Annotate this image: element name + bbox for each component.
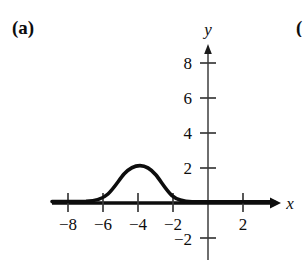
x-tick-label-minus-2: −2 xyxy=(164,215,182,234)
x-tick-label-minus-4: −4 xyxy=(129,215,148,234)
y-tick-label-6: 6 xyxy=(184,89,193,108)
x-tick-labels: −8 −6 −4 −2 2 xyxy=(59,215,247,234)
y-tick-label-4: 4 xyxy=(184,124,193,143)
x-axis-label: x xyxy=(285,194,294,213)
y-tick-label-8: 8 xyxy=(184,54,193,73)
figure-container: (a) ( 8 6 xyxy=(0,0,304,264)
y-axis-group xyxy=(200,44,216,260)
x-tick-label-2: 2 xyxy=(239,215,248,234)
graph-plot: 8 6 4 2 −2 −8 −6 −4 −2 2 y x xyxy=(0,0,304,264)
y-tick-label-2: 2 xyxy=(184,159,193,178)
x-tick-label-minus-8: −8 xyxy=(59,215,77,234)
x-tick-label-minus-6: −6 xyxy=(94,215,112,234)
y-axis-arrowhead xyxy=(204,44,212,54)
curve-path xyxy=(52,166,274,202)
y-axis-label: y xyxy=(202,20,212,39)
